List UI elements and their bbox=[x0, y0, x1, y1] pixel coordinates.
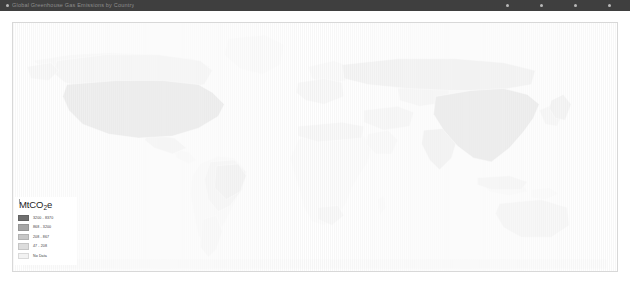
legend-label-bin1: 3200 - 8370 bbox=[33, 215, 53, 222]
world-map-svg bbox=[13, 23, 617, 271]
legend-title-subscript: 2 bbox=[43, 204, 47, 211]
legend-title-main: MtCO bbox=[19, 199, 43, 210]
legend-swatch-bin1 bbox=[18, 215, 29, 222]
app-header-title: Global Greenhouse Gas Emissions by Count… bbox=[12, 0, 134, 11]
legend-swatch-nodata bbox=[18, 253, 29, 260]
menu-glyph-icon bbox=[608, 4, 611, 7]
info-icon[interactable] bbox=[574, 0, 580, 11]
download-glyph-icon bbox=[540, 4, 543, 7]
legend-row[interactable]: 47 - 208 bbox=[18, 243, 75, 251]
share-glyph-icon bbox=[506, 4, 509, 7]
app-header: Global Greenhouse Gas Emissions by Count… bbox=[0, 0, 630, 11]
legend-swatch-bin4 bbox=[18, 243, 29, 250]
info-glyph-icon bbox=[574, 4, 577, 7]
legend-label-bin3: 208 - 867 bbox=[33, 234, 49, 241]
legend-label-nodata: No Data bbox=[33, 253, 47, 260]
download-icon[interactable] bbox=[540, 0, 546, 11]
legend-row[interactable]: 868 - 3200 bbox=[18, 224, 75, 232]
legend-label-bin2: 868 - 3200 bbox=[33, 224, 51, 231]
world-map-canvas[interactable] bbox=[13, 23, 617, 271]
app-logo-icon bbox=[6, 4, 9, 7]
legend-row[interactable]: 208 - 867 bbox=[18, 233, 75, 241]
legend-title-suffix: e bbox=[47, 199, 52, 210]
legend-title: MtCO2e bbox=[19, 199, 75, 211]
legend-row[interactable]: 3200 - 8370 bbox=[18, 214, 75, 222]
legend-swatch-bin2 bbox=[18, 224, 29, 231]
choropleth-map-panel[interactable]: MtCO2e 3200 - 8370 868 - 3200 208 - 867 … bbox=[12, 22, 618, 272]
legend-swatch-bin3 bbox=[18, 234, 29, 241]
header-actions bbox=[506, 0, 624, 11]
map-hatch-overlay bbox=[13, 23, 617, 271]
legend-label-bin4: 47 - 208 bbox=[33, 243, 47, 250]
menu-icon[interactable] bbox=[608, 0, 614, 11]
map-legend: MtCO2e 3200 - 8370 868 - 3200 208 - 867 … bbox=[15, 197, 77, 265]
share-icon[interactable] bbox=[506, 0, 512, 11]
legend-tick-mark bbox=[19, 199, 20, 204]
legend-row[interactable]: No Data bbox=[18, 252, 75, 260]
